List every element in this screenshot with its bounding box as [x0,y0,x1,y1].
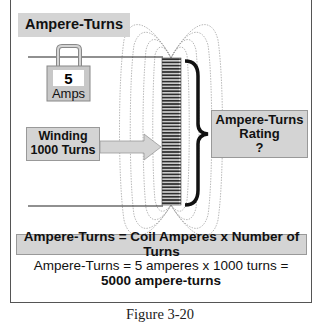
formula-label: Ampere-Turns = Coil Amperes x Number of … [16,234,307,255]
winding-label-line2: 1000 Turns [30,144,95,158]
rating-label-line3: ? [256,141,264,155]
ammeter-unit: Amps [47,86,90,100]
ammeter-value: 5 [53,70,84,86]
figure-caption: Figure 3-20 [0,306,320,322]
example-result: 5000 ampere-turns [10,273,312,288]
rating-label-line1: Ampere-Turns [216,113,304,127]
example-equation: Ampere-Turns = 5 amperes x 1000 turns = [10,258,312,273]
rating-label: Ampere-Turns Rating ? [211,110,308,158]
winding-label: Winding 1000 Turns [26,127,100,161]
title-label: Ampere-Turns [18,13,130,37]
winding-label-line1: Winding [38,130,87,144]
rating-label-line2: Rating [239,127,279,141]
coil [162,58,181,205]
